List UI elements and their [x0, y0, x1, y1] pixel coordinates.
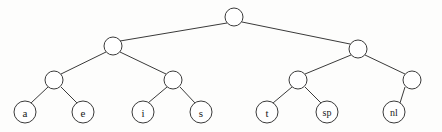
tree-node-right_right: [403, 71, 421, 89]
tree-node-right_left: [289, 71, 307, 89]
tree-node-left: [104, 37, 122, 55]
tree-node-leaf_e: e: [72, 101, 94, 123]
internal-node-circle-right_left: [289, 71, 307, 89]
internal-node-circle-left: [104, 37, 122, 55]
leaf-label-leaf_sp: sp: [323, 107, 332, 118]
internal-node-circle-left_right: [164, 71, 182, 89]
internal-node-circle-root: [225, 8, 243, 26]
tree-edge-left_left-to-leaf_a: [31, 87, 48, 103]
tree-edge-left_right-to-leaf_i: [148, 87, 167, 103]
binary-tree-figure: aeistspnl: [0, 0, 442, 132]
leaf-label-leaf_s: s: [199, 107, 203, 119]
tree-edge-root-to-right: [242, 22, 350, 44]
tree-edge-right_left-to-leaf_t: [273, 87, 292, 103]
leaf-label-leaf_nl: nl: [390, 107, 398, 118]
internal-node-circle-right_right: [403, 71, 421, 89]
tree-edge-left_left-to-leaf_e: [61, 87, 77, 103]
leaf-label-leaf_a: a: [23, 107, 28, 119]
tree-node-leaf_i: i: [132, 101, 154, 123]
leaf-label-leaf_e: e: [81, 107, 86, 119]
tree-edges: [31, 22, 405, 103]
tree-edge-right_right-to-leaf_nl: [400, 87, 405, 103]
leaf-label-leaf_t: t: [265, 107, 268, 119]
tree-node-leaf_s: s: [190, 101, 212, 123]
leaf-label-leaf_i: i: [141, 107, 144, 119]
tree-node-left_left: [45, 71, 63, 89]
tree-node-left_right: [164, 71, 182, 89]
tree-node-right: [349, 40, 367, 58]
tree-edge-left_right-to-leaf_s: [180, 87, 195, 103]
tree-nodes: aeistspnl: [14, 8, 421, 123]
tree-node-leaf_a: a: [14, 101, 36, 123]
tree-canvas: aeistspnl: [0, 0, 442, 132]
tree-edge-right-to-right_right: [365, 55, 405, 74]
tree-edge-right_left-to-leaf_sp: [305, 87, 321, 103]
tree-node-leaf_nl: nl: [383, 101, 405, 123]
tree-edge-root-to-left: [120, 23, 227, 41]
tree-node-root: [225, 8, 243, 26]
internal-node-circle-left_left: [45, 71, 63, 89]
internal-node-circle-right: [349, 40, 367, 58]
tree-edge-right-to-right_left: [305, 55, 351, 74]
tree-edge-left-to-left_right: [120, 52, 166, 74]
tree-edge-left-to-left_left: [61, 52, 106, 74]
tree-node-leaf_t: t: [256, 101, 278, 123]
tree-node-leaf_sp: sp: [316, 101, 338, 123]
